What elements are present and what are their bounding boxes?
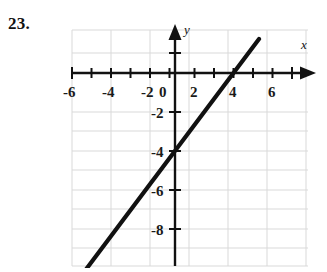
y-axis-label: y: [182, 22, 190, 37]
y-tick-label: -6: [151, 183, 164, 199]
grid-lines: [72, 30, 308, 266]
origin-label: 0: [159, 84, 167, 100]
y-tick-label: -4: [151, 144, 164, 160]
y-tick-label: -2: [151, 105, 164, 121]
x-tick-label: -4: [102, 84, 115, 100]
x-tick-label: 4: [229, 84, 237, 100]
graph-canvas: y x 0 -6 -4 -2 2 4 6 -2 -4 -6 -8: [58, 18, 320, 268]
x-axis-label: x: [300, 37, 307, 52]
y-tick-label: -8: [151, 222, 164, 238]
figure-container: 23.: [0, 0, 327, 272]
x-tick-label: -2: [141, 84, 154, 100]
x-tick-label: 6: [268, 84, 276, 100]
x-tick-label: -6: [63, 84, 76, 100]
coordinate-plane: y x 0 -6 -4 -2 2 4 6 -2 -4 -6 -8: [58, 18, 320, 268]
problem-number: 23.: [8, 14, 30, 34]
x-tick-label: 2: [190, 84, 198, 100]
